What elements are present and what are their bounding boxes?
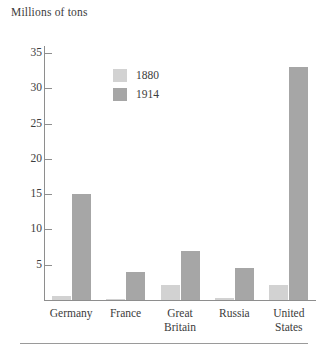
bar-chart: Millions of tons 5101520253035 18801914 … — [0, 0, 324, 355]
legend-swatch-icon — [113, 69, 127, 82]
legend-item: 1880 — [113, 68, 159, 83]
bar — [235, 268, 254, 300]
y-axis-tick-label: 20 — [2, 153, 42, 165]
bar — [72, 194, 91, 300]
bar — [181, 251, 200, 300]
legend-label: 1914 — [136, 89, 159, 101]
legend-swatch-icon — [113, 88, 127, 101]
plot-area — [44, 46, 316, 300]
bar — [126, 272, 145, 300]
y-axis-tick-label: 5 — [2, 259, 42, 271]
y-axis-tick-label: 25 — [2, 118, 42, 130]
legend-item: 1914 — [113, 87, 159, 102]
bar — [106, 299, 125, 300]
bottom-divider — [20, 343, 308, 344]
bar — [215, 298, 234, 300]
bar — [161, 285, 180, 300]
category-label-line: States — [256, 320, 322, 334]
legend-label: 1880 — [136, 70, 159, 82]
x-axis-line — [44, 300, 316, 301]
chart-legend: 18801914 — [113, 68, 159, 106]
category-label: UnitedStates — [256, 306, 322, 334]
y-axis-tick-label: 35 — [2, 47, 42, 59]
bar — [289, 67, 308, 300]
y-axis-tick-label: 30 — [2, 83, 42, 95]
category-label-line: United — [256, 306, 322, 320]
y-axis-tick-label: 15 — [2, 188, 42, 200]
y-axis-title: Millions of tons — [11, 6, 88, 18]
y-axis-tick-label: 10 — [2, 224, 42, 236]
bar — [269, 285, 288, 300]
bar — [52, 296, 71, 300]
category-label-line: Britain — [147, 320, 213, 334]
